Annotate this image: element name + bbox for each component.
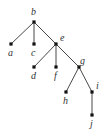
node-label-a: a [8, 47, 13, 58]
edge-b-a [11, 22, 34, 44]
node-label-g: g [80, 55, 85, 66]
node-label-h: h [63, 95, 68, 106]
node-c [32, 42, 35, 45]
node-a [9, 42, 12, 45]
edge-g-h [66, 67, 79, 92]
edge-g-i [79, 67, 92, 92]
node-b [32, 20, 35, 23]
tree-labels: bacedfghij [8, 6, 99, 129]
node-label-d: d [31, 70, 37, 81]
node-e [54, 42, 57, 45]
node-d [32, 65, 35, 68]
node-i [90, 90, 93, 93]
node-label-j: j [88, 118, 93, 129]
edge-b-e [34, 22, 56, 44]
node-label-i: i [96, 80, 99, 91]
edge-e-g [56, 44, 79, 67]
node-label-c: c [31, 47, 36, 58]
node-j [90, 113, 93, 116]
node-label-e: e [60, 32, 65, 43]
node-label-f: f [54, 70, 58, 81]
edge-e-d [34, 44, 56, 67]
node-h [64, 90, 67, 93]
tree-nodes [9, 20, 93, 116]
node-label-b: b [31, 6, 36, 17]
tree-diagram: bacedfghij [0, 0, 106, 137]
node-f [54, 65, 57, 68]
